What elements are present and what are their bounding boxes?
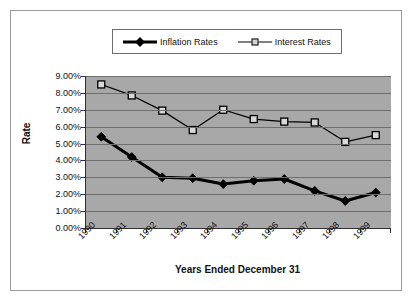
legend-label-interest-rates: Interest Rates	[275, 37, 331, 47]
y-axis-tick-mark	[81, 211, 86, 212]
plot-area	[85, 76, 391, 229]
gridline	[86, 144, 391, 145]
y-axis-tick-mark	[81, 127, 86, 128]
interest-series-marker-icon	[238, 36, 272, 47]
series-line-inflation	[101, 137, 376, 201]
y-axis-tick-label: 1.00%	[39, 206, 81, 216]
gridline	[86, 160, 391, 161]
legend-item-interest-rates: Interest Rates	[238, 36, 331, 47]
y-axis-tick-mark	[81, 93, 86, 94]
y-axis-tick-mark	[81, 144, 86, 145]
chart-figure: Inflation Rates Interest Rates Rate 0.00…	[0, 0, 414, 300]
data-point-marker-square	[311, 119, 318, 126]
inflation-series-marker-icon	[123, 36, 157, 47]
gridline	[86, 211, 391, 212]
y-axis-tick-label: 3.00%	[39, 172, 81, 182]
gridline	[86, 110, 391, 111]
data-point-marker-square	[98, 81, 105, 88]
gridline	[86, 93, 391, 94]
data-point-marker-square	[372, 132, 379, 139]
data-point-marker-diamond	[341, 197, 350, 206]
legend-label-inflation-rates: Inflation Rates	[160, 37, 218, 47]
data-point-marker-diamond	[219, 180, 228, 189]
y-axis-tick-label: 8.00%	[39, 88, 81, 98]
y-axis-tick-label: 2.00%	[39, 189, 81, 199]
data-point-marker-diamond	[371, 188, 380, 197]
chart-lines	[86, 76, 391, 228]
y-axis-tick-label: 0.00%	[39, 223, 81, 233]
legend-item-inflation-rates: Inflation Rates	[123, 36, 218, 47]
gridline	[86, 177, 391, 178]
y-axis-tick-labels: 0.00%1.00%2.00%3.00%4.00%5.00%6.00%7.00%…	[39, 76, 81, 228]
y-axis-tick-mark	[81, 76, 86, 77]
y-axis-title: Rate	[21, 104, 32, 164]
top-caption	[70, 0, 330, 3]
chart-legend: Inflation Rates Interest Rates	[112, 29, 342, 54]
y-axis-tick-label: 7.00%	[39, 105, 81, 115]
gridline	[86, 127, 391, 128]
y-axis-tick-mark	[81, 160, 86, 161]
y-axis-tick-label: 9.00%	[39, 71, 81, 81]
y-axis-tick-label: 5.00%	[39, 139, 81, 149]
x-axis-tick-mark	[390, 228, 391, 233]
y-axis-tick-mark	[81, 110, 86, 111]
y-axis-tick-label: 6.00%	[39, 122, 81, 132]
gridline	[86, 76, 391, 77]
data-point-marker-square	[250, 116, 257, 123]
gridline	[86, 194, 391, 195]
data-point-marker-square	[281, 118, 288, 125]
y-axis-tick-mark	[81, 177, 86, 178]
y-axis-tick-mark	[81, 194, 86, 195]
y-axis-tick-label: 4.00%	[39, 155, 81, 165]
data-point-marker-diamond	[280, 175, 289, 184]
x-axis-title: Years Ended December 31	[85, 264, 390, 275]
